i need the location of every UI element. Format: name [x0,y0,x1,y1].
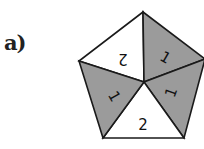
pentagon-diagram: 2 1 1 2 1 [0,0,204,149]
sector-value-top-left: 2 [118,50,128,68]
sector-value-bottom: 2 [138,116,148,134]
